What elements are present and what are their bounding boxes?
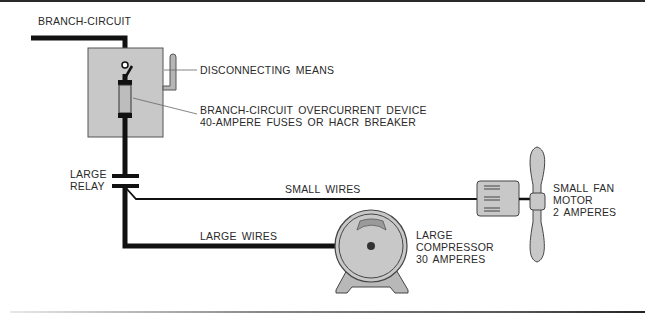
wiring-diagram: BRANCH-CIRCUIT DISCONNECTING MEANS BRANC… [0,0,645,313]
fuse-body [119,85,131,113]
disconnect-enclosure [88,48,176,137]
large-wires-label: LARGE WIRES [200,230,277,242]
overcurrent-device-label: BRANCH-CIRCUIT OVERCURRENT DEVICE 40-AMP… [200,104,427,128]
small-wires-label: SMALL WIRES [285,183,361,195]
fan-motor [477,181,531,216]
compressor [335,210,408,293]
compressor-line1: LARGE [416,229,494,241]
compressor-shaft [367,242,375,250]
fan-line1: SMALL FAN [553,182,616,194]
overcurrent-line2: 40-AMPERE FUSES OR HACR BREAKER [200,116,427,128]
disconnecting-means-label: DISCONNECTING MEANS [200,64,334,76]
switch-contact [122,62,128,68]
fan-hub [530,193,545,210]
compressor-line2: COMPRESSOR [416,241,494,253]
top-frame-line [0,0,645,2]
overcurrent-line1: BRANCH-CIRCUIT OVERCURRENT DEVICE [200,104,427,116]
compressor-label: LARGE COMPRESSOR 30 AMPERES [416,229,494,265]
fuse-cap-bottom [118,113,132,118]
relay-contact-top [112,174,139,178]
fuse-cap-top [118,80,132,85]
fan-motor-label: SMALL FAN MOTOR 2 AMPERES [553,182,616,218]
relay-line2: RELAY [70,180,107,192]
fan-blade [530,147,545,262]
disconnect-handle [163,54,176,90]
fan-line3: 2 AMPERES [553,206,616,218]
branch-circuit-label: BRANCH-CIRCUIT [38,15,131,27]
diagram-canvas [0,0,645,313]
relay-line1: LARGE [70,168,107,180]
fan-line2: MOTOR [553,194,616,206]
compressor-line3: 30 AMPERES [416,253,494,265]
relay-label: LARGE RELAY [70,168,107,192]
relay-contact-bottom [112,184,139,188]
